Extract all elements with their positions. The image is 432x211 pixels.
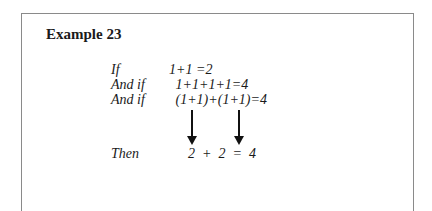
row-expr-and-if-2: (1+1)+(1+1)=4 xyxy=(172,92,267,108)
row-expr-and-if-1: 1+1+1+1=4 xyxy=(172,77,248,93)
row-expr-then: 2 + 2 = 4 xyxy=(181,146,256,162)
row-expr-if: 1+1 =2 xyxy=(169,62,212,78)
row-label-and-if-2: And if xyxy=(111,92,145,108)
arrow-down-icon xyxy=(191,110,193,138)
row-label-if: If xyxy=(111,62,120,78)
row-label-then: Then xyxy=(111,146,139,162)
arrow-down-icon xyxy=(238,110,240,138)
example-title: Example 23 xyxy=(46,26,121,43)
row-label-and-if-1: And if xyxy=(111,77,145,93)
